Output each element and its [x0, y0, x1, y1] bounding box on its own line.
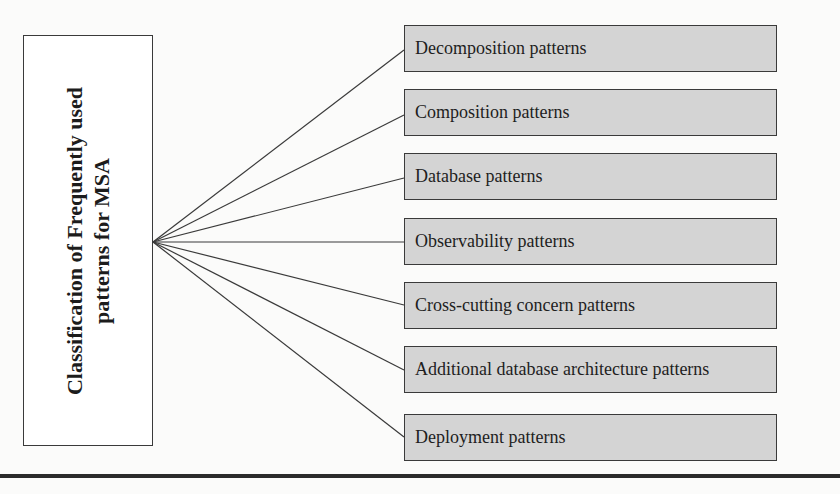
connector-cross-cutting — [153, 242, 404, 305]
root-node-box: Classification of Frequently used patter… — [23, 35, 153, 446]
connector-deployment — [153, 242, 404, 437]
connector-database — [153, 178, 404, 242]
connector-decomposition — [153, 50, 404, 242]
leaf-observability-patterns: Observability patterns — [404, 218, 777, 265]
root-node-title: Classification of Frequently used patter… — [61, 41, 115, 441]
leaf-additional-database-architecture-patterns: Additional database architecture pattern… — [404, 346, 777, 393]
connector-additional-database — [153, 242, 404, 370]
leaf-decomposition-patterns: Decomposition patterns — [404, 25, 777, 72]
leaf-label: Additional database architecture pattern… — [415, 359, 709, 380]
leaf-label: Cross-cutting concern patterns — [415, 295, 635, 316]
leaf-label: Database patterns — [415, 166, 542, 187]
bottom-divider-rule — [0, 474, 840, 478]
leaf-composition-patterns: Composition patterns — [404, 89, 777, 136]
leaf-database-patterns: Database patterns — [404, 153, 777, 200]
leaf-deployment-patterns: Deployment patterns — [404, 414, 777, 461]
leaf-label: Deployment patterns — [415, 427, 565, 448]
leaf-label: Observability patterns — [415, 231, 574, 252]
leaf-label: Composition patterns — [415, 102, 570, 123]
root-title-line-1: Classification of Frequently used — [61, 41, 88, 441]
leaf-label: Decomposition patterns — [415, 38, 586, 59]
connector-composition — [153, 115, 404, 242]
root-title-line-2: patterns for MSA — [88, 41, 115, 441]
leaf-cross-cutting-concern-patterns: Cross-cutting concern patterns — [404, 282, 777, 329]
